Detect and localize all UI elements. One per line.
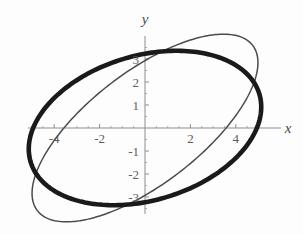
y-tick-label: 3 bbox=[133, 52, 140, 67]
y-tick-label: -1 bbox=[128, 144, 139, 159]
x-tick-label: 2 bbox=[187, 131, 194, 146]
y-axis-label: y bbox=[140, 11, 149, 27]
y-tick-label: -3 bbox=[128, 190, 139, 205]
x-axis-label: x bbox=[284, 120, 292, 136]
y-tick-label: 2 bbox=[133, 75, 140, 90]
x-tick-label: -4 bbox=[49, 131, 60, 146]
y-tick-label: -2 bbox=[128, 167, 139, 182]
x-tick-label: 4 bbox=[233, 131, 240, 146]
y-tick-label: 1 bbox=[133, 98, 140, 113]
x-tick-label: -2 bbox=[94, 131, 105, 146]
plot-figure: -4-224321-1-2-3 x y bbox=[0, 0, 303, 234]
plot-canvas: -4-224321-1-2-3 x y bbox=[0, 0, 303, 234]
